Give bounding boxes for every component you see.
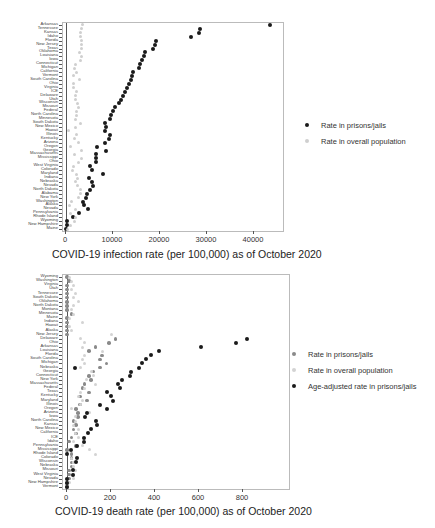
data-point-age-adjusted: [86, 431, 90, 435]
y-tick: [59, 355, 62, 356]
dot-gray-icon: [292, 352, 296, 356]
data-point: [65, 296, 69, 300]
data-point: [74, 208, 77, 211]
y-tick: [59, 277, 62, 278]
y-tick: [59, 56, 62, 57]
data-point: [79, 403, 82, 406]
y-tick: [59, 388, 62, 389]
data-point: [74, 420, 77, 423]
data-point: [83, 382, 87, 386]
data-point: [94, 453, 97, 456]
data-point: [72, 304, 75, 307]
data-point: [268, 23, 272, 27]
data-point: [74, 292, 77, 295]
data-point: [101, 350, 104, 353]
data-point: [71, 169, 74, 172]
y-tick: [59, 37, 62, 38]
data-point: [101, 172, 105, 176]
data-point: [74, 94, 77, 97]
data-point: [137, 66, 141, 70]
x-tick-mark: [110, 489, 111, 492]
data-point: [82, 203, 86, 207]
data-point-age-adjusted: [144, 357, 148, 361]
state-label: Maine: [47, 226, 58, 230]
data-point: [73, 67, 76, 70]
data-point: [80, 157, 83, 160]
x-tick-label: 200: [104, 493, 117, 502]
y-tick: [59, 84, 62, 85]
y-tick: [59, 96, 62, 97]
data-point-age-adjusted: [71, 473, 75, 477]
y-tick: [59, 425, 62, 426]
data-point: [67, 129, 70, 132]
data-point: [86, 207, 90, 211]
data-point-age-adjusted: [105, 390, 109, 394]
y-tick: [59, 298, 62, 299]
y-tick: [59, 45, 62, 46]
data-point: [77, 196, 80, 199]
data-point: [81, 23, 84, 26]
data-point-age-adjusted: [118, 386, 122, 390]
data-point: [77, 300, 80, 303]
data-point: [70, 457, 73, 460]
data-point: [76, 184, 79, 187]
data-point: [65, 284, 69, 288]
data-point-age-adjusted: [109, 394, 113, 398]
data-point: [75, 114, 78, 117]
data-point: [85, 399, 89, 403]
y-tick: [59, 119, 62, 120]
legend-item-overall: Rate in overall population: [290, 362, 416, 378]
y-tick: [59, 147, 62, 148]
y-tick: [59, 318, 62, 319]
x-tick-mark: [66, 489, 67, 492]
data-point: [94, 160, 98, 164]
data-point: [72, 296, 75, 299]
data-point: [78, 78, 81, 81]
y-tick: [59, 139, 62, 140]
x-tick-mark: [159, 231, 160, 234]
data-point: [89, 378, 93, 382]
y-tick: [59, 60, 62, 61]
data-point-age-adjusted: [157, 349, 161, 353]
data-point: [77, 106, 80, 109]
data-point-age-adjusted: [89, 427, 93, 431]
data-point: [117, 101, 121, 105]
infection-state-labels: ArkansasTennesseeKansasIdahoFloridaNew J…: [0, 22, 58, 232]
data-point: [67, 440, 71, 444]
y-tick: [59, 194, 62, 195]
data-point: [78, 51, 81, 54]
data-point: [65, 304, 69, 308]
y-tick: [59, 466, 62, 467]
data-point: [76, 411, 80, 415]
data-point: [81, 399, 84, 402]
data-point: [79, 391, 82, 394]
data-point: [87, 374, 91, 378]
data-point: [100, 354, 104, 358]
legend-item-overall: Rate in overall population: [303, 133, 406, 149]
data-point: [79, 31, 82, 34]
y-tick: [59, 363, 62, 364]
y-tick: [59, 25, 62, 26]
y-tick: [59, 127, 62, 128]
x-tick-mark: [198, 489, 199, 492]
x-tick-label: 30000: [196, 235, 217, 244]
y-tick: [59, 285, 62, 286]
x-tick-mark: [242, 489, 243, 492]
infection-rate-chart: ArkansasTennesseeKansasIdahoFloridaNew J…: [0, 0, 435, 262]
data-point-age-adjusted: [234, 341, 238, 345]
data-point: [68, 325, 71, 328]
y-tick: [59, 213, 62, 214]
y-tick: [59, 429, 62, 430]
data-point: [81, 358, 84, 361]
data-point: [83, 362, 86, 365]
data-point: [74, 407, 78, 411]
y-tick: [59, 326, 62, 327]
y-tick: [59, 186, 62, 187]
data-point: [104, 149, 108, 153]
data-point: [70, 452, 74, 456]
data-point: [72, 477, 75, 480]
data-point: [107, 137, 111, 141]
x-tick-mark: [206, 231, 207, 234]
y-tick: [59, 421, 62, 422]
data-point: [65, 288, 69, 292]
